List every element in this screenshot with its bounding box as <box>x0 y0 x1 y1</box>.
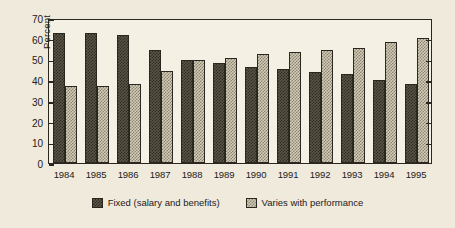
y-tick-mark <box>49 144 54 146</box>
y-axis-tick: 10 <box>32 139 49 149</box>
x-axis-tick: 1984 <box>48 169 80 180</box>
bar-group <box>213 20 237 163</box>
y-axis-tick: 30 <box>32 98 49 108</box>
bar-group <box>341 20 365 163</box>
bar-varies <box>97 86 109 163</box>
x-axis-tick: 1988 <box>176 169 208 180</box>
bar-varies <box>321 50 333 163</box>
y-tick-mark <box>49 102 54 104</box>
y-axis-tick: 40 <box>32 77 49 87</box>
legend-label-varies: Varies with performance <box>262 198 364 208</box>
bar-varies <box>65 86 77 163</box>
bar-varies <box>193 60 205 163</box>
bar-fixed <box>53 33 65 164</box>
bar-group <box>277 20 301 163</box>
bar-chart: Percent 010203040506070 Fixed (salary an… <box>0 0 455 228</box>
bar-fixed <box>405 84 417 163</box>
bar-fixed <box>149 50 161 163</box>
bar-varies <box>161 71 173 163</box>
bar-group <box>309 20 333 163</box>
y-tick-mark <box>426 61 431 63</box>
x-axis-tick: 1985 <box>80 169 112 180</box>
bar-fixed <box>373 80 385 163</box>
legend-label-fixed: Fixed (salary and benefits) <box>108 198 220 208</box>
bar-group <box>117 20 141 163</box>
dark-dither-swatch-icon <box>92 198 103 208</box>
bar-group <box>245 20 269 163</box>
y-tick-mark <box>426 144 431 146</box>
plot-area <box>49 20 431 163</box>
y-tick-mark <box>49 61 54 63</box>
y-tick-mark <box>49 19 54 21</box>
bar-varies <box>289 52 301 163</box>
y-tick-mark <box>426 40 431 42</box>
bar-fixed <box>277 69 289 163</box>
bar-group <box>53 20 77 163</box>
bar-group <box>85 20 109 163</box>
x-axis-tick: 1992 <box>304 169 336 180</box>
y-axis-tick: 60 <box>32 36 49 46</box>
x-axis-tick: 1994 <box>368 169 400 180</box>
bar-fixed <box>309 72 321 163</box>
y-tick-mark <box>49 164 54 166</box>
legend-item-varies: Varies with performance <box>246 198 364 208</box>
bar-group <box>149 20 173 163</box>
bar-varies <box>129 84 141 163</box>
bar-varies <box>225 58 237 163</box>
x-axis-tick: 1993 <box>336 169 368 180</box>
bar-fixed <box>245 67 257 163</box>
bar-varies <box>257 54 269 163</box>
x-axis-tick: 1986 <box>112 169 144 180</box>
bar-varies <box>353 48 365 163</box>
bar-varies <box>385 42 397 163</box>
x-axis-tick: 1990 <box>240 169 272 180</box>
y-tick-mark <box>49 123 54 125</box>
legend-item-fixed: Fixed (salary and benefits) <box>92 198 220 208</box>
y-tick-mark <box>426 123 431 125</box>
bar-group <box>181 20 205 163</box>
y-tick-mark <box>426 81 431 83</box>
bar-fixed <box>213 63 225 163</box>
bar-fixed <box>85 33 97 164</box>
bar-fixed <box>341 74 353 163</box>
x-axis-tick: 1995 <box>400 169 432 180</box>
bar-group <box>373 20 397 163</box>
x-axis-tick: 1989 <box>208 169 240 180</box>
x-axis-tick: 1991 <box>272 169 304 180</box>
light-dither-swatch-icon <box>246 198 257 208</box>
y-tick-mark <box>49 40 54 42</box>
y-axis-tick: 70 <box>32 15 49 25</box>
plot-frame: Percent 010203040506070 <box>48 19 432 164</box>
chart-legend: Fixed (salary and benefits) Varies with … <box>0 198 455 208</box>
bar-fixed <box>181 60 193 163</box>
bar-fixed <box>117 35 129 163</box>
y-tick-mark <box>426 102 431 104</box>
y-axis-tick: 50 <box>32 56 49 66</box>
y-tick-mark <box>49 81 54 83</box>
y-axis-tick: 20 <box>32 119 49 129</box>
x-axis-tick: 1987 <box>144 169 176 180</box>
